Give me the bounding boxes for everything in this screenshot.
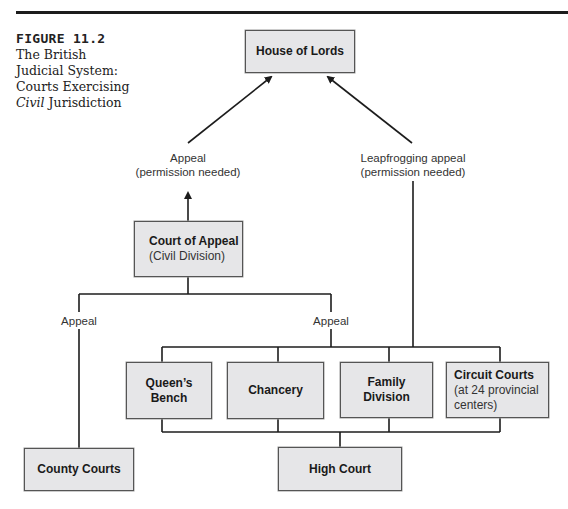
node-court-of-appeal: Court of Appeal (Civil Division) [134,221,243,277]
node-queens-bench: Queen’s Bench [126,362,212,419]
node-chancery: Chancery [227,362,324,419]
node-circuit-courts: Circuit Courts (at 24 provincial centers… [446,362,549,418]
node-subtitle: (at 24 provincial centers) [454,383,548,413]
edge-label-line2: (permission needed) [353,165,473,179]
node-title: Chancery [248,383,303,398]
node-title: Queen’s Bench [127,376,211,406]
node-title: Circuit Courts [454,368,534,383]
edge-label-appeal-permission: Appeal (permission needed) [128,151,248,179]
edge-label-line2: (permission needed) [128,165,248,179]
node-family-division: Family Division [340,362,433,418]
node-high-court: High Court [278,447,402,491]
node-subtitle: (Civil Division) [149,249,225,264]
edge-label-line1: Leapfrogging appeal [353,151,473,165]
node-title: Court of Appeal [149,234,239,249]
edge-label-line1: Appeal [128,151,248,165]
node-county-courts: County Courts [24,448,134,491]
node-title: County Courts [37,462,120,477]
node-title: Family Division [359,375,414,405]
connector-lines [0,0,568,509]
node-title: House of Lords [256,44,344,59]
node-title: High Court [309,462,371,477]
edge-label-leapfrog: Leapfrogging appeal (permission needed) [353,151,473,179]
node-house-of-lords: House of Lords [245,30,355,73]
edge-label-appeal-county: Appeal [54,314,104,328]
edge-label-appeal-high: Appeal [306,314,356,328]
